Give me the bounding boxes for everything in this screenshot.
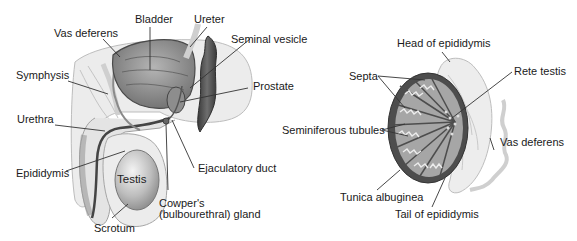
label-scrotum: Scrotum [94, 222, 135, 234]
label-symphysis: Symphysis [16, 69, 69, 81]
label-seminal-vesicle: Seminal vesicle [231, 33, 307, 45]
anatomy-diagram: Bladder Ureter Vas deferens Seminal vesi… [0, 0, 577, 241]
label-rete-testis: Rete testis [514, 65, 566, 77]
label-urethra: Urethra [17, 113, 54, 125]
label-septa: Septa [349, 70, 378, 82]
label-vas-deferens-right: Vas deferens [500, 136, 564, 148]
label-head-of-epididymis: Head of epididymis [397, 37, 491, 49]
label-ureter: Ureter [194, 13, 225, 25]
label-tunica-albuginea: Tunica albuginea [340, 191, 423, 203]
label-vas-deferens-left: Vas deferens [54, 27, 118, 39]
label-epididymis: Epididymis [16, 167, 69, 179]
label-prostate: Prostate [253, 80, 294, 92]
label-cowpers-gland-line2: (bulbourethral) gland [159, 208, 261, 220]
label-testis: Testis [117, 173, 146, 185]
label-ejaculatory-duct: Ejaculatory duct [198, 162, 276, 174]
label-tail-of-epididymis: Tail of epididymis [395, 208, 479, 220]
label-bladder: Bladder [135, 13, 173, 25]
label-seminiferous-tubules: Seminiferous tubules [282, 124, 385, 136]
